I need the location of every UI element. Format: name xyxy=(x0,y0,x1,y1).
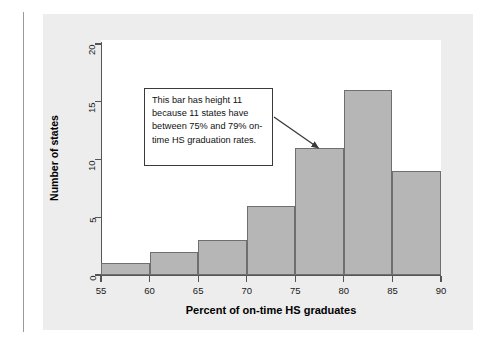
histogram-bar-65-70 xyxy=(198,240,247,275)
x-axis-title: Percent of on-time HS graduates xyxy=(101,304,441,316)
x-tick-label-80: 80 xyxy=(329,285,359,296)
y-tick-label-15: 15 xyxy=(87,102,98,113)
histogram-bar-60-65 xyxy=(150,252,199,275)
x-tick-75 xyxy=(295,276,296,282)
page-margin-rule xyxy=(23,12,24,332)
x-tick-label-55: 55 xyxy=(86,285,116,296)
x-tick-60 xyxy=(149,276,150,282)
x-axis-line xyxy=(101,275,441,276)
annotation-callout: This bar has height 11 because 11 states… xyxy=(144,88,273,166)
histogram-bar-55-60 xyxy=(101,263,150,275)
y-tick-label-0: 0 xyxy=(87,276,98,281)
y-axis-title: Number of states xyxy=(48,115,60,201)
x-tick-label-65: 65 xyxy=(183,285,213,296)
x-tick-55 xyxy=(100,276,101,282)
x-tick-90 xyxy=(440,276,441,282)
x-tick-85 xyxy=(392,276,393,282)
x-tick-80 xyxy=(343,276,344,282)
y-tick-label-10: 10 xyxy=(87,160,98,171)
y-axis-line xyxy=(101,42,102,276)
histogram-bar-70-75 xyxy=(247,206,296,275)
histogram-bar-85-90 xyxy=(392,171,441,275)
x-tick-label-60: 60 xyxy=(135,285,165,296)
x-tick-65 xyxy=(198,276,199,282)
y-tick-label-20: 20 xyxy=(87,45,98,56)
x-tick-label-85: 85 xyxy=(377,285,407,296)
histogram-bar-75-80 xyxy=(295,148,344,275)
x-tick-label-70: 70 xyxy=(232,285,262,296)
x-tick-label-90: 90 xyxy=(426,285,456,296)
histogram-bar-80-85 xyxy=(344,90,393,275)
y-tick-label-5: 5 xyxy=(87,218,98,223)
x-tick-70 xyxy=(246,276,247,282)
x-tick-label-75: 75 xyxy=(280,285,310,296)
